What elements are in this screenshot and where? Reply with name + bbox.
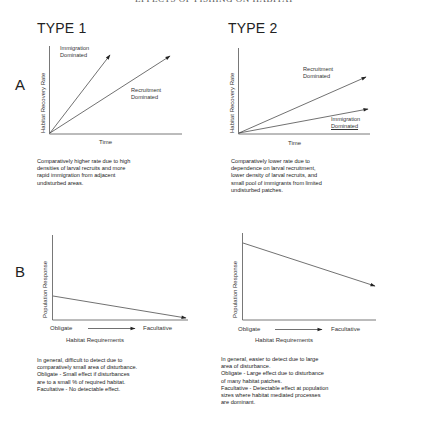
type2-b-y-axis-label: Population Response [232,261,238,318]
type2-a-x-axis-label: Time [288,140,301,146]
type1-obligate-label: Obligate [50,325,72,331]
type2-panel-b-line [243,243,375,286]
type1-habitat-requirements-label: Habitat Requirements [66,337,124,343]
type2-obligate-label: Obligate [238,326,260,332]
type2-panel-b-axes [243,233,377,320]
type2-facultative-label: Facultative [331,326,360,332]
type1-b-description: In general, difficult to detect due to c… [37,357,217,393]
type1-a-y-axis-label: Habitat Recovery Rate [40,73,46,133]
type1-a-x-axis-label: Time [99,139,112,145]
type1-recruitment-label: Recruitment Dominated [131,87,161,101]
type2-recruitment-label: Recruitment Dominated [303,66,333,80]
type2-a-description: Comparatively lower rate due to dependen… [231,158,411,194]
type1-b-y-axis-label: Population Response [42,261,48,318]
type1-immigration-label: Immigration Dominated [60,45,89,59]
type2-b-description: In general, easier to detect due to larg… [221,356,421,406]
type1-facultative-label: Facultative [143,325,172,331]
type2-a-y-axis-label: Habitat Recovery Rate [229,73,235,133]
type2-immigration-label: Immigration Dominated [331,116,360,130]
type2-habitat-requirements-label: Habitat Requirements [255,337,313,343]
type1-a-description: Comparatively higher rate due to high de… [37,158,212,187]
type1-panel-b-line [53,296,186,318]
